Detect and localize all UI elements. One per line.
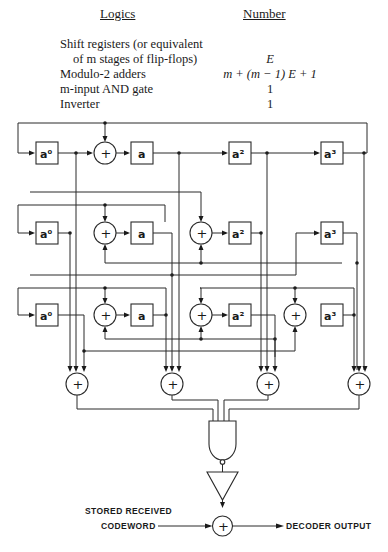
output-adder-3-symbol: + bbox=[264, 377, 275, 392]
register-a0-row2-label: a⁰ bbox=[40, 228, 52, 241]
register-a1-row1-label: a bbox=[138, 148, 145, 161]
decision-logic: + STORED RECEIVED CODEWORD DECODER OUTPU… bbox=[85, 421, 372, 536]
adder-row2-a-symbol: + bbox=[101, 226, 112, 241]
input-label-line2: CODEWORD bbox=[101, 521, 156, 531]
and-gate-inversion-bubble bbox=[220, 460, 225, 465]
input-label-line1: STORED RECEIVED bbox=[85, 506, 172, 516]
register-row-3: a⁰ + a + a² + bbox=[18, 286, 356, 357]
register-row-1: a⁰ + a a² a³ bbox=[18, 121, 367, 164]
output-adder-1-symbol: + bbox=[73, 377, 84, 392]
register-a2-row2-label: a² bbox=[232, 228, 244, 241]
output-adders: + + + + bbox=[66, 373, 370, 421]
register-a3-row3-label: a³ bbox=[324, 310, 336, 323]
register-a0-row3-label: a⁰ bbox=[40, 310, 52, 323]
adder-row2-b-symbol: + bbox=[197, 226, 208, 241]
decoder-circuit-diagram: a⁰ + a a² a³ a⁰ + bbox=[0, 0, 388, 552]
inverter bbox=[207, 472, 238, 500]
and-gate bbox=[209, 421, 236, 460]
register-row-2: a⁰ + a + a² a³ bbox=[18, 192, 359, 277]
register-a3-row1-label: a³ bbox=[324, 148, 336, 161]
output-label: DECODER OUTPUT bbox=[286, 521, 372, 531]
register-a2-row3-label: a² bbox=[232, 310, 244, 323]
final-adder-symbol: + bbox=[218, 519, 229, 534]
output-adder-4-symbol: + bbox=[355, 377, 366, 392]
register-a3-row2-label: a³ bbox=[324, 228, 336, 241]
register-a1-row3-label: a bbox=[138, 310, 145, 323]
adder-row3-c-symbol: + bbox=[291, 308, 302, 323]
register-a2-row1-label: a² bbox=[232, 148, 244, 161]
register-a1-row2-label: a bbox=[138, 228, 145, 241]
adder-row1-symbol: + bbox=[101, 146, 112, 161]
adder-row3-b-symbol: + bbox=[197, 308, 208, 323]
register-a0-row1-label: a⁰ bbox=[40, 148, 52, 161]
adder-row3-a-symbol: + bbox=[101, 308, 112, 323]
output-adder-2-symbol: + bbox=[168, 377, 179, 392]
